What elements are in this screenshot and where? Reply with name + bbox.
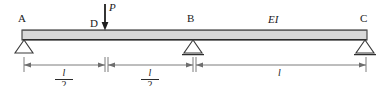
node-label-d: D [90,18,98,29]
support-a [15,40,33,53]
dim-arrowhead-right-b [186,63,193,68]
beam-member [22,30,367,40]
dimension-label-b-c: l [278,68,281,78]
support-a-triangle [15,40,33,53]
dim-arrowhead-right-d [98,63,105,68]
dimension-label-d-b-numerator: l [141,68,159,78]
dim-arrowhead-left-a [24,63,31,68]
support-b [182,40,204,55]
node-label-c: C [360,13,367,24]
dimension-label-a-d-numerator: l [55,68,73,78]
load-label-p: P [109,2,116,13]
dimension-label-d-b: l 2 [141,68,159,86]
dim-arrowhead-right-c [359,63,366,68]
beam-diagram-figure: A D B C P EI l 2 l 2 l [0,0,380,86]
dim-arrowhead-left-b [196,63,203,68]
node-label-a: A [18,13,26,24]
support-c-triangle [356,40,374,53]
dimension-label-a-d: l 2 [55,68,73,86]
beam-stiffness-label: EI [268,14,278,25]
dimension-line-b-c [196,57,366,72]
dimension-label-a-d-denominator: 2 [55,80,73,86]
node-label-b: B [187,13,194,24]
load-arrow-head [102,22,109,31]
support-c [354,40,376,55]
dim-arrowhead-left-d [108,63,115,68]
dimension-label-d-b-denominator: 2 [141,80,159,86]
support-b-triangle [184,40,202,53]
point-load-arrow-icon [102,4,109,31]
